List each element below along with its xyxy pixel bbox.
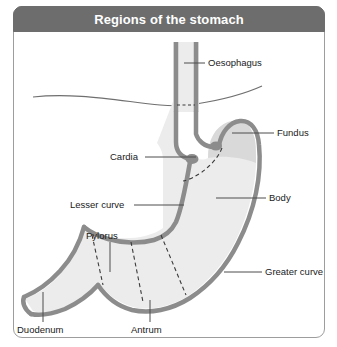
label-pylorus: Pylorus <box>86 231 118 241</box>
diaphragm-line-right <box>196 86 262 104</box>
label-cardia: Cardia <box>110 152 138 162</box>
cardia-wall-left <box>176 112 190 159</box>
label-oesophagus: Oesophagus <box>208 58 262 68</box>
stomach-illustration <box>0 0 337 347</box>
label-antrum: Antrum <box>131 325 162 335</box>
label-fundus: Fundus <box>277 128 309 138</box>
label-greater-curve: Greater curve <box>265 267 323 277</box>
diaphragm-line <box>33 96 190 106</box>
label-duodenum: Duodenum <box>17 325 63 335</box>
label-body: Body <box>269 193 291 203</box>
label-lesser-curve: Lesser curve <box>70 200 124 210</box>
stomach-regions-figure: Regions of the stomach <box>0 0 337 347</box>
